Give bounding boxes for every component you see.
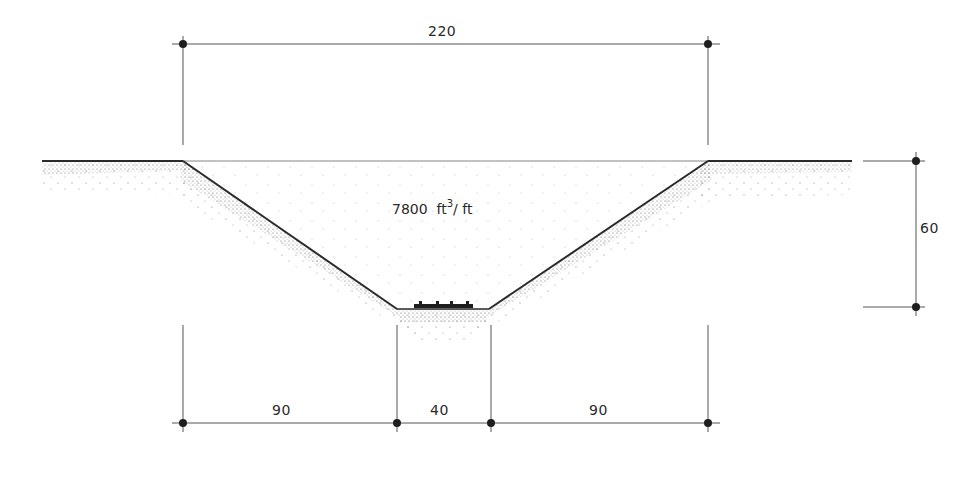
top-width-dimension [172,36,720,145]
top-width-label: 220 [428,23,456,39]
volume-unit-base: ft [437,201,447,217]
bottom-width-label: 40 [430,402,449,418]
volume-unit-exponent: 3 [447,198,453,209]
depth-dimension [863,152,925,316]
depth-label: 60 [920,220,939,236]
right-slope-run-label: 90 [589,402,608,418]
volume-unit-per: / ft [453,201,472,217]
cross-section-diagram [0,0,975,481]
left-slope-run-label: 90 [272,402,291,418]
volume-label: 7800 ft3/ ft [392,199,472,217]
volume-value: 7800 [392,201,428,217]
